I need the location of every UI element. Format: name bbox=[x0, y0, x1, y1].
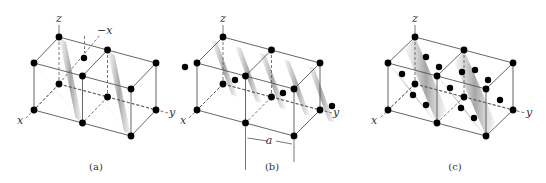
lattice-atom bbox=[291, 133, 298, 140]
lattice-atom bbox=[399, 71, 405, 77]
cube-edge bbox=[83, 50, 108, 76]
dimension-line bbox=[276, 141, 292, 144]
lattice-atom bbox=[268, 94, 275, 101]
lattice-atom bbox=[329, 103, 335, 109]
cube-edge bbox=[415, 37, 464, 50]
cube-edge bbox=[83, 76, 132, 89]
lattice-atom bbox=[459, 69, 465, 75]
cube-edge bbox=[34, 84, 59, 110]
lattice-atom bbox=[423, 102, 429, 108]
lattice-atom bbox=[436, 64, 442, 70]
cube-edge bbox=[437, 123, 486, 136]
lattice-atom bbox=[220, 34, 227, 41]
lattice-atom bbox=[31, 60, 38, 67]
lattice-atom bbox=[242, 73, 249, 80]
panel-caption: (a) bbox=[89, 161, 103, 172]
cube-edge bbox=[131, 110, 156, 136]
lattice-diagram: zxy−x(a) zxya(b) zxy(c) bbox=[0, 0, 546, 183]
panel-b: zxya(b) bbox=[180, 12, 340, 172]
lattice-atom bbox=[79, 120, 86, 127]
panel-caption: (c) bbox=[448, 161, 462, 172]
lattice-atom bbox=[153, 107, 160, 114]
cube-edge bbox=[83, 97, 108, 123]
lattice-atom bbox=[485, 77, 491, 83]
panel-caption: (b) bbox=[265, 161, 279, 172]
lattice-atom bbox=[461, 94, 468, 101]
lattice-atom bbox=[458, 105, 464, 111]
y-axis-label: y bbox=[168, 106, 176, 119]
shaded-plane bbox=[108, 50, 132, 136]
lattice-atom bbox=[128, 86, 135, 93]
lattice-atom bbox=[194, 107, 201, 114]
lattice-atom bbox=[182, 64, 188, 70]
neg-x-axis-label: −x bbox=[97, 24, 113, 37]
x-axis-label: x bbox=[17, 114, 24, 127]
lattice-atom bbox=[483, 133, 490, 140]
lattice-atom bbox=[280, 90, 286, 96]
lattice-atom bbox=[471, 115, 477, 121]
lattice-atom bbox=[317, 60, 324, 67]
lattice-atom bbox=[291, 86, 298, 93]
shaded-plane bbox=[308, 66, 335, 123]
lattice-atom bbox=[410, 92, 416, 98]
lattice-atom bbox=[497, 97, 503, 103]
lattice-atom bbox=[434, 73, 441, 80]
dimension-line bbox=[248, 138, 268, 141]
cube-edge bbox=[464, 50, 513, 63]
lattice-atom bbox=[104, 94, 111, 101]
lattice-atom bbox=[510, 60, 517, 67]
dimension-label: a bbox=[266, 134, 273, 147]
lattice-atom bbox=[412, 34, 419, 41]
lattice-atom bbox=[412, 81, 419, 88]
lattice-atom bbox=[423, 54, 429, 60]
panel-a: zxy−x(a) bbox=[17, 12, 176, 172]
x-axis-label: x bbox=[371, 114, 378, 127]
lattice-atom bbox=[483, 86, 490, 93]
z-axis-label: z bbox=[219, 12, 226, 25]
lattice-atom bbox=[268, 47, 275, 54]
crystal-plane-figure: zxy−x(a) zxya(b) zxy(c) (a) (b) (c) bbox=[0, 0, 546, 183]
lattice-atom bbox=[220, 81, 227, 88]
cube-edge bbox=[223, 37, 272, 50]
cube-edge bbox=[388, 110, 437, 123]
lattice-atom bbox=[510, 107, 517, 114]
lattice-atom bbox=[194, 60, 201, 67]
lattice-atom bbox=[31, 107, 38, 114]
lattice-atom bbox=[153, 60, 160, 67]
y-axis-label: y bbox=[525, 106, 533, 119]
cube-edge bbox=[108, 97, 157, 110]
lattice-atom bbox=[232, 77, 238, 83]
lattice-atom bbox=[128, 133, 135, 140]
cube-edge bbox=[59, 84, 108, 97]
z-axis-label: z bbox=[411, 12, 418, 25]
cube-edge bbox=[486, 63, 513, 89]
lattice-atom bbox=[81, 55, 87, 61]
lattice-atom bbox=[56, 81, 63, 88]
lattice-atom bbox=[447, 85, 453, 91]
lattice-atom bbox=[79, 73, 86, 80]
lattice-atom bbox=[385, 107, 392, 114]
lattice-atom bbox=[472, 67, 478, 73]
lattice-atom bbox=[385, 60, 392, 67]
x-axis-label: x bbox=[180, 114, 187, 127]
lattice-atom bbox=[242, 120, 249, 127]
lattice-atom bbox=[461, 47, 468, 54]
lattice-atom bbox=[317, 107, 324, 114]
cube-edge bbox=[197, 110, 246, 123]
lattice-atom bbox=[56, 34, 63, 41]
lattice-atom bbox=[434, 120, 441, 127]
cube-edge bbox=[34, 37, 59, 63]
cube-edge bbox=[197, 84, 223, 110]
panel-c: zxy(c) bbox=[371, 12, 533, 172]
z-axis-label: z bbox=[55, 12, 62, 25]
lattice-atom bbox=[104, 47, 111, 54]
cube-edge bbox=[272, 50, 321, 63]
cube-edge bbox=[131, 63, 156, 89]
